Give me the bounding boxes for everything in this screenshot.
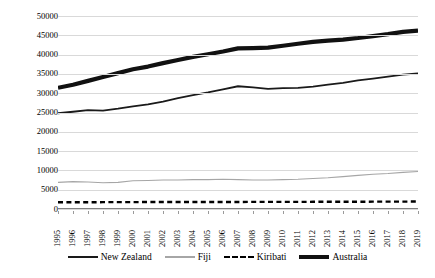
x-axis-tick: 2015 <box>358 213 359 247</box>
legend-label: Australia <box>332 252 367 262</box>
legend-label: Fiji <box>198 252 211 262</box>
x-axis-tick-mark <box>373 211 374 214</box>
x-axis-tick: 2008 <box>253 213 254 247</box>
x-axis-tick: 1995 <box>58 213 59 247</box>
x-axis-tick-label: 2010 <box>278 230 287 247</box>
x-axis-tick-label: 1998 <box>98 230 107 247</box>
x-axis-tick: 2010 <box>283 213 284 247</box>
y-axis-tick-label: 35000 <box>37 69 58 78</box>
x-axis-tick-label: 1997 <box>83 230 92 247</box>
x-axis-tick: 2000 <box>133 213 134 247</box>
x-axis-tick-label: 2008 <box>248 230 257 247</box>
x-axis-tick-mark <box>268 211 269 214</box>
x-axis-tick: 2012 <box>313 213 314 247</box>
x-axis-tick-label: 2011 <box>293 230 302 247</box>
line-solid-thin-icon <box>165 252 195 262</box>
gridline <box>58 151 418 152</box>
x-axis-tick: 2016 <box>373 213 374 247</box>
x-axis-tick-mark <box>403 211 404 214</box>
y-axis-tick-label: 20000 <box>37 127 58 136</box>
x-axis-tick-mark <box>298 211 299 214</box>
x-axis-tick: 2014 <box>343 213 344 247</box>
x-axis-tick: 2007 <box>238 213 239 247</box>
legend-label: Kiribati <box>257 252 287 262</box>
legend-item-australia[interactable]: Australia <box>299 252 367 262</box>
series-line-kiribati <box>58 202 418 203</box>
x-axis-tick-label: 2003 <box>173 230 182 247</box>
plot-area <box>58 16 418 209</box>
x-axis-tick-label: 2012 <box>308 230 317 247</box>
gridline <box>58 132 418 133</box>
x-axis-tick-mark <box>118 211 119 214</box>
line-chart: 5000045000400003500030000250002000015000… <box>0 0 435 278</box>
x-axis-tick: 2003 <box>178 213 179 247</box>
x-axis-tick-label: 2000 <box>128 230 137 247</box>
x-axis-tick-label: 2018 <box>398 230 407 247</box>
legend-label: New Zealand <box>101 252 152 262</box>
x-axis-tick-mark <box>163 211 164 214</box>
x-axis-tick-label: 2015 <box>353 230 362 247</box>
x-axis-tick-mark <box>358 211 359 214</box>
x-axis-tick-label: 2017 <box>383 230 392 247</box>
y-axis-tick-label: 40000 <box>37 50 58 59</box>
gridline <box>58 55 418 56</box>
x-axis-tick: 1996 <box>73 213 74 247</box>
x-axis-tick-label: 2013 <box>323 230 332 247</box>
y-axis-tick-label: 5000 <box>41 185 58 194</box>
line-solid-thick-icon <box>299 252 329 262</box>
x-axis-tick: 2019 <box>418 213 419 247</box>
gridline <box>58 113 418 114</box>
y-axis-tick-label: 10000 <box>37 166 58 175</box>
x-axis-tick-mark <box>253 211 254 214</box>
x-axis-tick-mark <box>313 211 314 214</box>
legend-item-kiribati[interactable]: Kiribati <box>224 252 287 262</box>
x-axis-tick-label: 1999 <box>113 230 122 247</box>
x-axis-tick-label: 2007 <box>233 230 242 247</box>
y-axis-tick-label: 25000 <box>37 108 58 117</box>
x-axis-tick-label: 2006 <box>218 230 227 247</box>
x-axis-tick: 2001 <box>148 213 149 247</box>
gridline <box>58 170 418 171</box>
x-axis-tick-mark <box>328 211 329 214</box>
x-axis-tick-label: 2009 <box>263 230 272 247</box>
x-axis-tick-mark <box>223 211 224 214</box>
gridline <box>58 93 418 94</box>
x-axis-tick: 2017 <box>388 213 389 247</box>
x-axis-tick-mark <box>283 211 284 214</box>
x-axis-tick-mark <box>148 211 149 214</box>
x-axis-tick-label: 2001 <box>143 230 152 247</box>
x-axis-tick-mark <box>73 211 74 214</box>
gridline <box>58 209 418 210</box>
x-axis-tick: 2018 <box>403 213 404 247</box>
x-axis-tick-label: 2016 <box>368 230 377 247</box>
x-axis-tick: 2009 <box>268 213 269 247</box>
x-axis-tick-mark <box>388 211 389 214</box>
x-axis-tick-label: 2014 <box>338 230 347 247</box>
x-axis-tick: 2006 <box>223 213 224 247</box>
y-axis-tick-label: 30000 <box>37 89 58 98</box>
x-axis-tick-label: 2005 <box>203 230 212 247</box>
x-axis-tick-label: 2019 <box>413 230 422 247</box>
x-axis-tick-mark <box>418 211 419 214</box>
x-axis-tick-label: 2002 <box>158 230 167 247</box>
legend-item-fiji[interactable]: Fiji <box>165 252 211 262</box>
y-axis-tick-label: 15000 <box>37 147 58 156</box>
x-axis-tick-mark <box>133 211 134 214</box>
line-solid-medium-icon <box>68 252 98 262</box>
y-axis-tick-label: 50000 <box>37 12 58 21</box>
x-axis-tick: 1998 <box>103 213 104 247</box>
legend-item-new-zealand[interactable]: New Zealand <box>68 252 152 262</box>
x-axis-tick-mark <box>88 211 89 214</box>
line-dashed-icon <box>224 252 254 262</box>
x-axis-tick-mark <box>58 211 59 214</box>
chart-legend: New ZealandFijiKiribatiAustralia <box>0 252 435 262</box>
x-axis-tick: 2004 <box>193 213 194 247</box>
x-axis-tick: 2002 <box>163 213 164 247</box>
x-axis-tick-mark <box>178 211 179 214</box>
x-axis-line <box>58 208 418 209</box>
series-line-fiji <box>58 172 418 183</box>
gridline <box>58 190 418 191</box>
gridline <box>58 16 418 17</box>
x-axis-tick-label: 1995 <box>53 230 62 247</box>
y-axis-tick-label: 45000 <box>37 31 58 40</box>
